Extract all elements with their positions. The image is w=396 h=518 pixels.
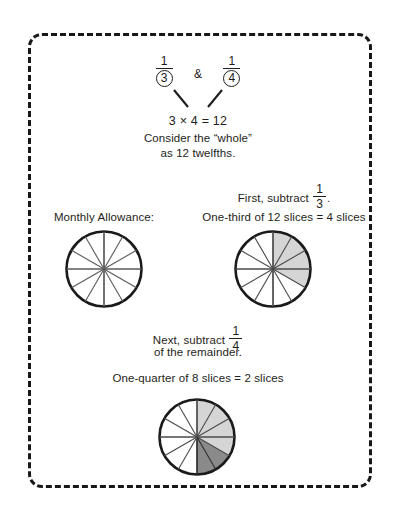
worksheet-page: 1 3 & 1 4 3 × 4 = 12 Consider the “whole… (0, 0, 396, 518)
converging-arrows (0, 88, 396, 114)
step-two-instruction-line-2: of the remainder. (0, 345, 396, 359)
monthly-allowance-caption: Monthly Allowance: (24, 210, 184, 224)
fraction-numerator: 1 (156, 55, 173, 67)
one-quarter-subtracted-pie (157, 397, 237, 477)
step-one-instruction-suffix: . (327, 192, 330, 204)
fraction-bar (223, 68, 240, 69)
arrow-right-line (208, 90, 222, 107)
fraction-numerator: 1 (223, 55, 240, 67)
arrow-left-line (174, 90, 188, 107)
one-third-caption: One-third of 12 slices = 4 slices (188, 210, 380, 224)
explanation-line-1: Consider the “whole” (0, 131, 396, 145)
fraction-denominator-circled: 4 (223, 70, 240, 87)
step-one-instruction-prefix: First, subtract (238, 192, 309, 204)
fraction-one-fourth: 1 4 (223, 55, 240, 87)
fraction-pair-row: 1 3 & 1 4 (0, 55, 396, 87)
step-one-fraction-one-third: 1 3 (313, 183, 326, 211)
monthly-allowance-pie (64, 229, 144, 309)
one-third-subtracted-pie (233, 229, 313, 309)
fraction-denominator-circled: 3 (156, 70, 173, 87)
fraction-numerator: 1 (313, 183, 326, 195)
ampersand-label: & (194, 67, 202, 81)
fraction-numerator: 1 (229, 325, 242, 337)
fraction-one-third: 1 3 (156, 55, 173, 87)
product-equation: 3 × 4 = 12 (0, 114, 396, 128)
explanation-line-2: as 12 twelfths. (0, 146, 396, 160)
fraction-bar (156, 68, 173, 69)
step-one-instruction: First, subtract 1 3 . (196, 183, 372, 211)
one-quarter-caption: One-quarter of 8 slices = 2 slices (0, 371, 396, 385)
